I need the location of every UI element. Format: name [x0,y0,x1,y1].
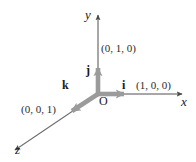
coordinate-axes-figure: x y z O i j k (1, 0, 0) (0, 1, 0) (0, 0,… [0,0,196,162]
i-vector-coordinate: (1, 0, 0) [136,80,171,91]
j-vector-coordinate: (0, 1, 0) [101,43,136,54]
i-vector-label: i [122,79,125,91]
y-axis-label: y [85,8,91,21]
origin-label: O [99,95,108,107]
k-vector-coordinate: (0, 0, 1) [21,104,56,115]
unit-vectors [72,68,124,111]
j-vector-label: j [86,64,90,76]
z-axis-label: z [15,143,20,156]
x-axis-label: x [181,95,187,108]
k-vector-arrow [72,94,98,111]
k-vector-label: k [62,79,69,91]
